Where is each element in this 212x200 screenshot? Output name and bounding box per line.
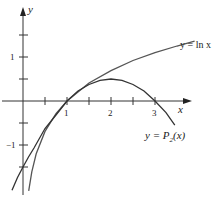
ln-x-label: y = ln x [180,39,211,50]
x-tick-label-3: 3 [152,108,157,118]
axes [2,12,186,195]
y-tick-label-neg1: −1 [6,140,16,150]
x-axis-arrow-icon [183,98,192,104]
y-axis-arrow-icon [20,7,26,16]
x-tick-label-2: 2 [108,108,113,118]
x-tick-label-1: 1 [64,108,69,118]
graph: 1 2 3 1 −1 x y y = ln x y = P2(x) [0,0,212,200]
p2-label: y = P2(x) [144,129,186,144]
x-axis-label: x [177,103,183,115]
y-axis-label: y [27,3,33,15]
y-tick-label-1: 1 [10,52,15,62]
